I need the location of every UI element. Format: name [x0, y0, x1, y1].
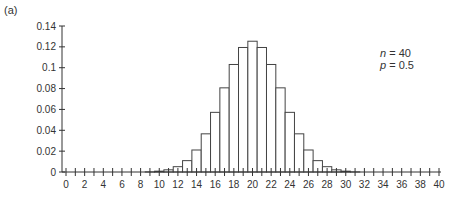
y-tick-label: 0.12	[37, 41, 57, 52]
x-tick-label: 20	[247, 179, 259, 190]
x-tick-label: 36	[396, 179, 408, 190]
y-tick-label: 0.06	[37, 104, 57, 115]
bar-25	[294, 134, 303, 172]
y-tick-label: 0	[50, 167, 56, 178]
bar-19	[239, 47, 248, 172]
bar-23	[276, 88, 285, 172]
y-tick-label: 0.02	[37, 146, 57, 157]
x-tick-label: 12	[172, 179, 184, 190]
x-tick-label: 14	[191, 179, 203, 190]
x-tick-label: 30	[340, 179, 352, 190]
x-tick-label: 28	[322, 179, 334, 190]
x-tick-label: 8	[138, 179, 144, 190]
x-tick-label: 2	[82, 179, 88, 190]
bar-24	[285, 112, 294, 172]
x-tick-label: 38	[415, 179, 427, 190]
x-tick-label: 6	[119, 179, 125, 190]
panel-label: (a)	[4, 4, 17, 16]
bar-18	[229, 64, 238, 172]
bar-15	[201, 134, 210, 172]
x-tick-label: 10	[154, 179, 166, 190]
bars	[145, 41, 359, 172]
y-tick-label: 0.04	[37, 125, 57, 136]
x-tick-label: 16	[210, 179, 222, 190]
x-tick-label: 26	[303, 179, 315, 190]
bar-20	[248, 41, 257, 172]
annotation-p: p = 0.5	[379, 59, 414, 71]
y-tick-label: 0.1	[42, 62, 56, 73]
y-tick-label: 0.08	[37, 83, 57, 94]
x-tick-label: 40	[433, 179, 445, 190]
bar-17	[220, 88, 229, 172]
annotation-n: n = 40	[380, 47, 411, 59]
x-tick-label: 34	[377, 179, 389, 190]
x-tick-label: 0	[63, 179, 69, 190]
x-tick-label: 32	[359, 179, 371, 190]
x-tick-label: 4	[101, 179, 107, 190]
x-tick-label: 18	[228, 179, 240, 190]
x-tick-label: 22	[266, 179, 278, 190]
bar-21	[257, 47, 266, 172]
y-tick-label: 0.14	[37, 21, 57, 32]
bar-16	[211, 112, 220, 172]
bar-22	[266, 64, 275, 172]
binomial-histogram: (a) 00.020.040.060.080.10.120.1402468101…	[0, 0, 456, 198]
x-tick-label: 24	[284, 179, 296, 190]
